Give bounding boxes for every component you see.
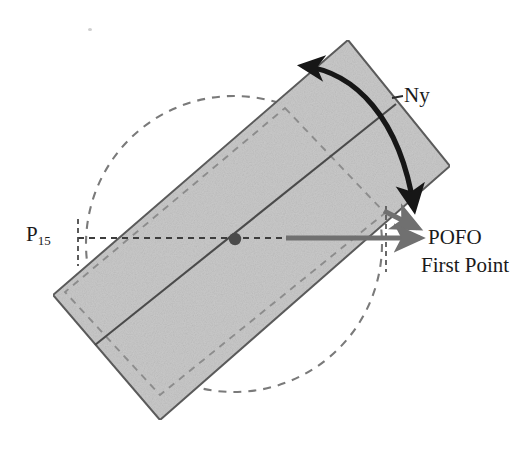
diagram-canvas: P15 Ny POFO First Point xyxy=(0,0,525,452)
label-p15-base: P xyxy=(26,222,38,246)
rotated-rectangle xyxy=(53,40,450,420)
label-first-point: First Point xyxy=(421,255,509,276)
label-p15: P15 xyxy=(26,224,51,245)
label-ny: Ny xyxy=(404,85,430,106)
label-pofo: POFO xyxy=(428,227,482,248)
label-p15-subscript: 15 xyxy=(38,233,51,248)
scan-speck xyxy=(88,28,92,31)
rotation-center-point xyxy=(229,233,241,245)
